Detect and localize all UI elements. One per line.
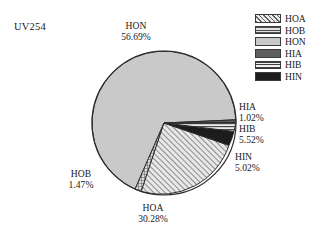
pie-label-hob-value: 1.47% bbox=[57, 179, 105, 190]
legend-label-hib: HIB bbox=[285, 59, 302, 70]
legend-swatch-hoa-diagonal-hatch-icon bbox=[255, 14, 281, 23]
legend-label-hoa: HOA bbox=[285, 13, 306, 24]
pie-label-hon-name: HON bbox=[108, 20, 164, 31]
pie-chart-figure: UV254 bbox=[0, 0, 317, 240]
legend-item-hon: HON bbox=[255, 36, 315, 47]
legend-swatch-hob-crosshatch-icon bbox=[255, 26, 281, 35]
pie-label-hin-value: 5.02% bbox=[235, 162, 279, 173]
pie-label-hob: HOB 1.47% bbox=[57, 168, 105, 190]
pie-label-hon: HON 56.69% bbox=[108, 20, 164, 42]
legend-swatch-hin-solid-near-black-icon bbox=[255, 72, 281, 81]
legend-item-hob: HOB bbox=[255, 25, 315, 36]
legend-item-hin: HIN bbox=[255, 71, 315, 82]
pie-label-hib-name: HIB bbox=[239, 123, 281, 134]
pie-label-hia-name: HIA bbox=[239, 101, 281, 112]
pie-label-hia: HIA 1.02% bbox=[239, 101, 281, 123]
pie-label-hin-name: HIN bbox=[235, 151, 279, 162]
legend-swatch-hon-solid-light-gray-icon bbox=[255, 37, 281, 46]
pie-label-hob-name: HOB bbox=[57, 168, 105, 179]
legend-item-hia: HIA bbox=[255, 48, 315, 59]
pie-label-hib-value: 5.52% bbox=[239, 134, 281, 145]
legend-swatch-hia-solid-dark-gray-icon bbox=[255, 49, 281, 58]
legend-label-hin: HIN bbox=[285, 71, 302, 82]
legend-item-hib: HIB bbox=[255, 59, 315, 70]
pie-label-hia-value: 1.02% bbox=[239, 112, 281, 123]
pie-label-hin: HIN 5.02% bbox=[235, 151, 279, 173]
pie-label-hoa-name: HOA bbox=[122, 202, 184, 213]
pie-label-hon-value: 56.69% bbox=[108, 31, 164, 42]
pie-label-hib: HIB 5.52% bbox=[239, 123, 281, 145]
legend-label-hob: HOB bbox=[285, 25, 305, 36]
legend-label-hon: HON bbox=[285, 36, 306, 47]
pie-label-hoa: HOA 30.28% bbox=[122, 202, 184, 224]
legend-swatch-hib-horizontal-lines-icon bbox=[255, 61, 281, 70]
legend-item-hoa: HOA bbox=[255, 13, 315, 24]
chart-legend: HOA HOB HON HIA HIB HIN bbox=[255, 13, 315, 83]
pie-label-hoa-value: 30.28% bbox=[122, 213, 184, 224]
legend-label-hia: HIA bbox=[285, 48, 302, 59]
